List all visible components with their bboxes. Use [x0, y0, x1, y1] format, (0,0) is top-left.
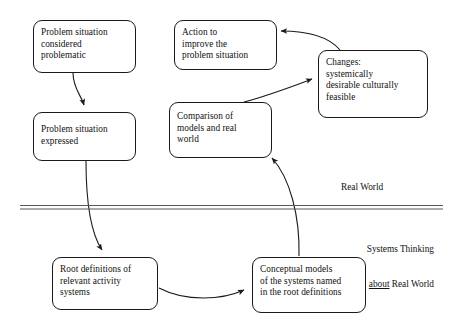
zone-label-systems-thinking-line1: Systems Thinking: [300, 244, 434, 256]
node-line: considered: [41, 39, 128, 51]
zone-label-real-world-word: Real World: [389, 279, 434, 289]
zone-label-real-world: Real World: [341, 182, 383, 194]
node-line: problematic: [41, 50, 128, 62]
node-line: feasible: [326, 92, 420, 104]
arrow-problematic-to-expressed: [73, 73, 84, 105]
node-conceptual-models-of-the-systems-named-in-the-root-definitions[interactable]: Conceptual models of the systems named i…: [252, 257, 366, 313]
node-line: systemically: [326, 69, 420, 81]
node-line: Action to: [182, 27, 269, 39]
node-line: of the systems named: [260, 276, 358, 288]
node-line: world: [177, 134, 264, 146]
node-action-to-improve-the-problem-situation[interactable]: Action to improve the problem situation: [174, 20, 277, 70]
node-line: problem situation: [182, 50, 269, 62]
node-root-definitions-of-relevant-activity-systems[interactable]: Root definitions of relevant activity sy…: [52, 257, 158, 310]
node-line: Changes:: [326, 57, 420, 69]
node-line: Comparison of: [177, 111, 264, 123]
arrow-root-definitions-to-conceptual-models: [159, 288, 244, 298]
node-line: models and real: [177, 123, 264, 135]
zone-label-about-word: about: [369, 279, 390, 289]
arrow-changes-to-action: [281, 31, 340, 50]
node-line: systems: [60, 287, 150, 299]
node-line: Problem situation: [41, 124, 128, 136]
node-line: relevant activity: [60, 276, 150, 288]
node-line: desirable culturally: [326, 80, 420, 92]
node-problem-situation-considered-problematic[interactable]: Problem situation considered problematic: [33, 20, 136, 73]
node-line: Conceptual models: [260, 264, 358, 276]
arrow-conceptual-models-to-comparison: [272, 158, 299, 256]
node-line: in the root definitions: [260, 287, 358, 299]
node-line: Root definitions of: [60, 264, 150, 276]
node-line: Problem situation: [41, 27, 128, 39]
node-comparison-of-models-and-real-world[interactable]: Comparison of models and real world: [169, 102, 272, 158]
ssm-diagram: Problem situation considered problematic…: [0, 0, 462, 328]
arrow-comparison-to-changes: [244, 79, 312, 102]
node-line: improve the: [182, 39, 269, 51]
node-line: expressed: [41, 136, 128, 148]
node-changes-systemically-desirable-culturally-feasible[interactable]: Changes: systemically desirable cultural…: [318, 50, 428, 118]
node-problem-situation-expressed[interactable]: Problem situation expressed: [33, 112, 136, 161]
